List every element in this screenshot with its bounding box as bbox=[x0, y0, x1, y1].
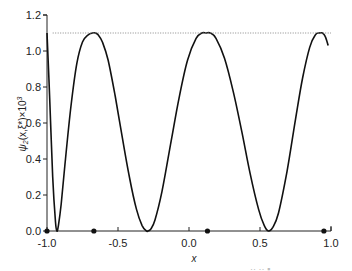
x-tick-label: 0.0 bbox=[181, 237, 196, 249]
node-dot bbox=[205, 228, 210, 233]
y-ticks: 0.00.20.40.60.81.01.2 bbox=[26, 9, 47, 237]
node-dot bbox=[321, 228, 326, 233]
plot-frame bbox=[43, 15, 331, 231]
x-tick-label: 1.0 bbox=[323, 237, 338, 249]
y-tick-label: 0.8 bbox=[26, 81, 41, 93]
x-tick-label: -0.5 bbox=[109, 237, 128, 249]
x-ticks: -1.0-0.50.00.51.0 bbox=[38, 227, 339, 249]
y-tick-label: 0.2 bbox=[26, 189, 41, 201]
series-layer bbox=[47, 33, 331, 232]
y-tick-label: 0.4 bbox=[26, 153, 41, 165]
psi2-curve bbox=[47, 33, 328, 232]
x-axis-label: x bbox=[191, 253, 198, 264]
y-label-args: (x,ξ*)×10 bbox=[17, 100, 29, 140]
svg-text:ψ2(x,ξ*)×103: ψ2(x,ξ*)×103 bbox=[16, 96, 29, 151]
y-tick-label: 1.2 bbox=[26, 9, 41, 21]
chart: 0.00.20.40.60.81.01.2 -1.0-0.50.00.51.0 … bbox=[0, 0, 352, 271]
node-dot bbox=[44, 228, 49, 233]
y-label-sup: 3 bbox=[16, 96, 23, 100]
y-axis-label: ψ2(x,ξ*)×103 bbox=[16, 96, 29, 151]
clipped-caption-fragment: ·· ·· ▪ bbox=[250, 264, 270, 271]
y-tick-label: 1.0 bbox=[26, 45, 41, 57]
node-dot bbox=[91, 228, 96, 233]
y-tick-label: 0.0 bbox=[26, 225, 41, 237]
x-tick-label: 0.5 bbox=[252, 237, 267, 249]
x-tick-label: -1.0 bbox=[38, 237, 57, 249]
